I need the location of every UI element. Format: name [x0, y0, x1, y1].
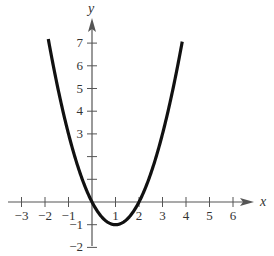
x-axis-label: x — [259, 194, 267, 209]
x-tick-label: −2 — [38, 208, 52, 223]
y-tick-label: 4 — [77, 103, 84, 118]
y-tick-label: 5 — [77, 81, 84, 96]
y-tick-label: −2 — [69, 239, 83, 254]
y-tick-label: 6 — [77, 58, 84, 73]
parabola-chart: xy−3−2−1123456−2−134567 — [0, 0, 274, 256]
x-tick-label: −3 — [15, 208, 29, 223]
y-axis-label: y — [86, 1, 95, 16]
x-tick-label: 1 — [112, 208, 119, 223]
x-tick-label: 5 — [206, 208, 213, 223]
x-tick-label: 3 — [159, 208, 166, 223]
x-tick-label: 2 — [136, 208, 143, 223]
x-tick-label: 4 — [183, 208, 190, 223]
parabola-curve — [48, 39, 182, 225]
y-tick-label: 3 — [77, 126, 84, 141]
y-tick-label: 7 — [77, 35, 84, 50]
y-tick-label: −1 — [69, 217, 83, 232]
x-tick-label: 6 — [230, 208, 237, 223]
